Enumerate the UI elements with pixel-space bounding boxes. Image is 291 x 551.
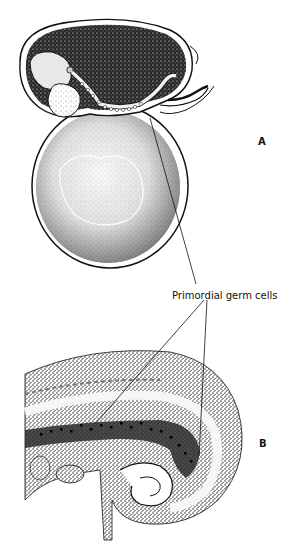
panel-label-b: B (259, 438, 267, 449)
panel-b-drawing (25, 351, 242, 540)
heart (48, 84, 80, 117)
embryo-illustration (0, 0, 291, 551)
yolk-stalk (56, 465, 84, 483)
panel-a-drawing (20, 19, 214, 268)
callout-primordial-germ-cells: Primordial germ cells (172, 290, 278, 301)
panel-label-a: A (258, 136, 266, 147)
embryo-body-b (25, 351, 242, 540)
